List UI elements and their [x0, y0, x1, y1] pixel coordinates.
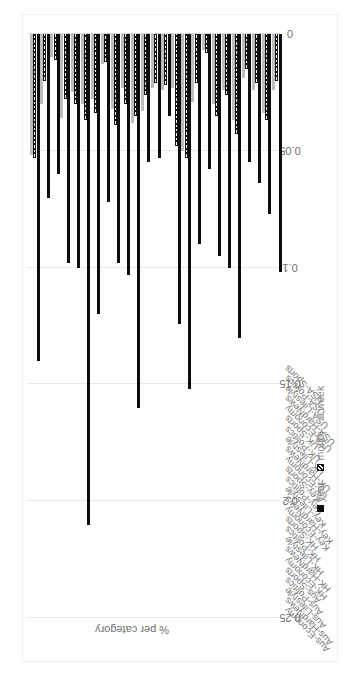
bar-group — [199, 34, 209, 618]
legend-item-month[interactable]: month — [314, 431, 326, 470]
bar-group — [270, 34, 280, 618]
chart-legend: year month week — [314, 386, 326, 512]
bar-group — [169, 34, 179, 618]
legend-swatch-month-icon — [317, 464, 324, 471]
bar-group — [99, 34, 109, 618]
bar-group — [119, 34, 129, 618]
legend-swatch-week-icon — [317, 413, 324, 420]
plot-area — [28, 34, 280, 618]
bar-group — [28, 34, 38, 618]
legend-label-month: month — [314, 431, 326, 460]
y-axis-title: % per category — [72, 624, 192, 636]
bar-group — [129, 34, 139, 618]
chart-frame: % per category 0.250.20.150.10.050 Aus-E… — [22, 14, 338, 662]
bar-group — [230, 34, 240, 618]
bar-group — [78, 34, 88, 618]
bar-group — [189, 34, 199, 618]
rotated-chart-stage: % per category 0.250.20.150.10.050 Aus-E… — [22, 14, 338, 662]
bar-group — [68, 34, 78, 618]
bar-group — [109, 34, 119, 618]
legend-item-week[interactable]: week — [314, 386, 326, 421]
legend-swatch-year-icon — [317, 505, 324, 512]
bar-group — [240, 34, 250, 618]
bar-group — [260, 34, 270, 618]
plot-area-wrapper: % per category 0.250.20.150.10.050 Aus-E… — [22, 14, 338, 662]
chart-page: % per category 0.250.20.150.10.050 Aus-E… — [0, 0, 359, 676]
bar-group — [209, 34, 219, 618]
bar-group — [250, 34, 260, 618]
bar-group — [48, 34, 58, 618]
legend-label-year: year — [314, 482, 326, 502]
legend-item-year[interactable]: year — [314, 482, 326, 512]
bar-group — [38, 34, 48, 618]
legend-label-week: week — [314, 386, 326, 411]
bar-group — [139, 34, 149, 618]
bar-group — [58, 34, 68, 618]
bar-group — [88, 34, 98, 618]
bar-group — [159, 34, 169, 618]
bar-group — [179, 34, 189, 618]
bar-group — [220, 34, 230, 618]
bar-group — [149, 34, 159, 618]
category-axis-labels: Aus-EconomyAus-HardNewsAus-LifestyleAus-… — [280, 34, 338, 618]
